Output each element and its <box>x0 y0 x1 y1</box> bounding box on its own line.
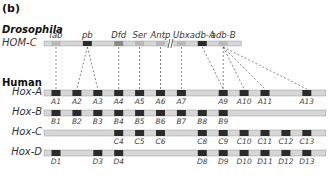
gene-a4-label: A4 <box>113 97 124 106</box>
gene-a7-label: A7 <box>175 97 186 106</box>
gene-c11-label: C11 <box>258 137 273 146</box>
gene-b3-box <box>93 110 102 116</box>
gene-lab-label: lab <box>50 30 63 40</box>
gene-b6-label: B6 <box>156 117 166 126</box>
gene-c13-label: C13 <box>299 137 314 146</box>
gene-c12-box <box>281 130 290 136</box>
gene-c5-box <box>135 130 144 136</box>
gene-c9-label: C9 <box>218 137 228 146</box>
gene-a5-box <box>135 90 144 96</box>
cluster-hox-d: Hox-DD1D3D4D8D9D10D11D12D13 <box>11 146 326 166</box>
gene-c6-box <box>156 130 165 136</box>
gene-d11-box <box>261 150 270 156</box>
gene-a6-label: A6 <box>155 97 166 106</box>
cluster-label: Hox-B <box>12 106 42 117</box>
gene-ser-box <box>135 41 144 46</box>
gene-d12-label: D12 <box>278 157 294 166</box>
gene-c10-label: C10 <box>237 137 252 146</box>
gene-b5-label: B5 <box>135 117 145 126</box>
gene-d13-label: D13 <box>299 157 315 166</box>
cluster-hox-c: Hox-CC4C5C6C8C9C10C11C12C13 <box>12 126 326 146</box>
gene-a4-box <box>114 90 123 96</box>
gene-ser-label: Ser <box>133 30 148 40</box>
gene-b7-box <box>177 110 186 116</box>
connector-adb-a-a9 <box>202 47 223 89</box>
gene-d11-label: D11 <box>257 157 272 166</box>
gene-a1-box <box>52 90 61 96</box>
gene-adb-b-box <box>219 41 228 46</box>
gene-pb-box <box>83 41 92 46</box>
gene-dfd-box <box>114 41 123 46</box>
cluster-label: Hox-A <box>12 86 42 97</box>
gene-d13-box <box>302 150 311 156</box>
hox-diagram: (b) Drosophila Human HOM-ClabpbDfdSerAnt… <box>0 0 329 193</box>
gene-d9-box <box>219 150 228 156</box>
connector-pb-a2 <box>77 47 87 89</box>
cluster-label: Hox-C <box>12 126 42 137</box>
gene-a13-box <box>302 90 311 96</box>
gene-b4-label: B4 <box>114 117 124 126</box>
connector-adb-b-a11 <box>223 47 265 89</box>
gene-c4-label: C4 <box>114 137 124 146</box>
gene-b5-box <box>135 110 144 116</box>
gene-c13-box <box>302 130 311 136</box>
gene-antp-label: Antp <box>150 30 171 40</box>
gene-adb-a-box <box>198 41 207 46</box>
gene-b8-box <box>198 110 207 116</box>
gene-c8-label: C8 <box>197 137 207 146</box>
hox-clusters: Hox-AA1A2A3A4A5A6A7A9A10A11A13Hox-BB1B2B… <box>11 86 326 166</box>
gene-b1-box <box>52 110 61 116</box>
gene-b9-label: B9 <box>218 117 228 126</box>
gene-c4-box <box>114 130 123 136</box>
hom-c-label: HOM-C <box>2 37 37 48</box>
gene-b4-box <box>114 110 123 116</box>
gene-a10-label: A10 <box>236 97 252 106</box>
gene-a9-box <box>219 90 228 96</box>
gene-a9-label: A9 <box>217 97 228 106</box>
cluster-label: Hox-D <box>11 146 42 157</box>
gene-b1-label: B1 <box>51 117 61 126</box>
panel-label: (b) <box>2 2 20 15</box>
gene-c10-box <box>240 130 249 136</box>
gene-c8-box <box>198 130 207 136</box>
gene-c5-label: C5 <box>135 137 145 146</box>
gene-a2-box <box>72 90 81 96</box>
gene-c12-label: C12 <box>279 137 294 146</box>
cluster-hox-a: Hox-AA1A2A3A4A5A6A7A9A10A11A13 <box>12 86 326 106</box>
gene-b6-box <box>156 110 165 116</box>
gene-b2-label: B2 <box>72 117 82 126</box>
gene-a7-box <box>177 90 186 96</box>
gene-b3-label: B3 <box>93 117 103 126</box>
gene-d12-box <box>281 150 290 156</box>
gene-d8-box <box>198 150 207 156</box>
gene-a11-label: A11 <box>257 97 273 106</box>
gene-d1-label: D1 <box>51 157 62 166</box>
gene-pb-label: pb <box>81 30 93 40</box>
gene-a13-label: A13 <box>298 97 314 106</box>
connector-pb-a3 <box>87 47 97 89</box>
gene-d10-label: D10 <box>236 157 252 166</box>
gene-a2-label: A2 <box>71 97 82 106</box>
gene-a3-label: A3 <box>92 97 103 106</box>
connector-adb-b-a13 <box>223 47 307 89</box>
cluster-hox-b: Hox-BB1B2B3B4B5B6B7B8B9 <box>12 106 326 126</box>
gene-d4-box <box>114 150 123 156</box>
gene-c6-label: C6 <box>155 137 165 146</box>
gene-d3-label: D3 <box>93 157 104 166</box>
gene-a3-box <box>93 90 102 96</box>
gene-a5-label: A5 <box>134 97 145 106</box>
gene-b2-box <box>72 110 81 116</box>
gene-c11-box <box>261 130 270 136</box>
gene-lab-box <box>52 41 61 46</box>
gene-a6-box <box>156 90 165 96</box>
gene-antp-box <box>156 41 165 46</box>
gene-d8-label: D8 <box>197 157 208 166</box>
connector-adb-b-a10 <box>223 47 244 89</box>
gene-b7-label: B7 <box>176 117 186 126</box>
gene-d10-box <box>240 150 249 156</box>
gene-d4-label: D4 <box>113 157 124 166</box>
gene-ubx-box <box>177 41 186 46</box>
gene-c9-box <box>219 130 228 136</box>
gene-d9-label: D9 <box>218 157 229 166</box>
gene-ubx-label: Ubx <box>173 30 191 40</box>
